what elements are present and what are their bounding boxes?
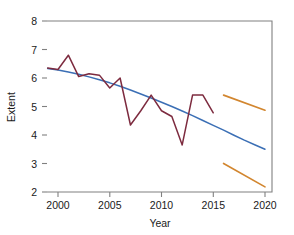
x-axis-ticks (58, 192, 265, 197)
x-tick-label-2020: 2020 (253, 199, 277, 211)
x-tick-label-2010: 2010 (150, 199, 174, 211)
series-projection-upper (224, 95, 265, 110)
y-axis-title: Extent (5, 92, 17, 122)
y-tick-label-7: 7 (31, 44, 37, 56)
series-group (48, 55, 265, 187)
x-axis-title: Year (149, 217, 171, 229)
extent-vs-year-line-chart: 8 7 6 5 4 3 2 2000 2005 2010 2015 2020 Y… (0, 0, 294, 235)
series-fitted-trend (48, 69, 265, 150)
y-tick-label-3: 3 (31, 158, 37, 170)
y-tick-label-6: 6 (31, 72, 37, 84)
series-observed-extent (48, 55, 214, 145)
y-tick-label-8: 8 (31, 15, 37, 27)
series-projection-lower (224, 164, 265, 187)
y-tick-label-4: 4 (31, 129, 37, 141)
y-tick-label-2: 2 (31, 186, 37, 198)
y-axis-ticks (42, 21, 47, 192)
chart-page: 8 7 6 5 4 3 2 2000 2005 2010 2015 2020 Y… (0, 0, 294, 235)
x-tick-label-2005: 2005 (98, 199, 122, 211)
x-tick-label-2000: 2000 (46, 199, 70, 211)
y-tick-label-5: 5 (31, 101, 37, 113)
x-tick-label-2015: 2015 (202, 199, 226, 211)
